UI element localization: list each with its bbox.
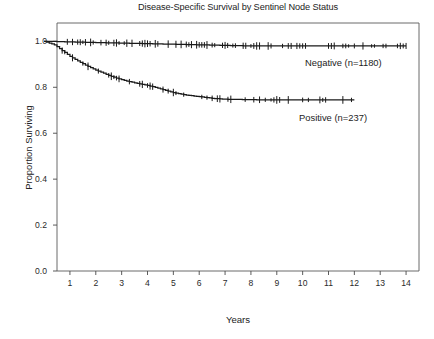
x-tick-label: 8 <box>243 278 259 288</box>
tick-marks <box>53 41 406 275</box>
plot-canvas <box>0 0 434 339</box>
x-tick-label: 9 <box>269 278 285 288</box>
x-tick-label: 13 <box>372 278 388 288</box>
x-tick-label: 7 <box>217 278 233 288</box>
x-tick-label: 4 <box>140 278 156 288</box>
x-tick-label: 14 <box>398 278 414 288</box>
x-tick-label: 3 <box>114 278 130 288</box>
x-tick-label: 6 <box>191 278 207 288</box>
y-tick-label: 1.0 <box>21 36 47 46</box>
x-tick-label: 2 <box>88 278 104 288</box>
chart-figure: Disease-Specific Survival by Sentinel No… <box>0 0 434 339</box>
series-curve-negative <box>44 39 406 50</box>
y-tick-label: 0.0 <box>21 266 47 276</box>
x-tick-label: 11 <box>321 278 337 288</box>
y-tick-label: 0.2 <box>21 220 47 230</box>
y-tick-label: 0.4 <box>21 174 47 184</box>
y-tick-label: 0.6 <box>21 128 47 138</box>
y-tick-label: 0.8 <box>21 82 47 92</box>
series-curve-positive <box>44 41 354 103</box>
series-label-positive: Positive (n=237) <box>299 112 367 123</box>
x-tick-label: 12 <box>346 278 362 288</box>
x-tick-label: 10 <box>295 278 311 288</box>
series-layer <box>44 39 406 104</box>
series-label-negative: Negative (n=1180) <box>305 57 382 68</box>
x-tick-label: 1 <box>62 278 78 288</box>
x-tick-label: 5 <box>165 278 181 288</box>
